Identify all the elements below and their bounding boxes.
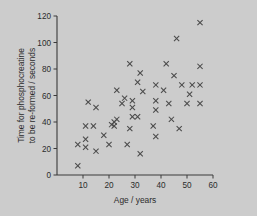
data-point [101, 133, 106, 138]
data-point [93, 149, 98, 154]
x-axis-title: Age / years [114, 195, 156, 205]
data-point [119, 101, 124, 106]
data-point [122, 96, 127, 101]
data-point [179, 82, 184, 87]
data-point [125, 142, 130, 147]
data-point [151, 123, 156, 128]
data-point [83, 145, 88, 150]
data-point [197, 64, 202, 69]
data-point [93, 105, 98, 110]
data-point [135, 114, 140, 119]
data-point [166, 101, 171, 106]
data-point [169, 117, 174, 122]
scatter-chart: 020406080100120102030405060Age / yearsTi… [0, 0, 257, 216]
y-tick-label: 100 [37, 39, 51, 48]
y-tick-label: 80 [42, 65, 52, 74]
y-axis-title-line: to be re-formed / seconds [27, 48, 37, 143]
x-tick-label: 20 [104, 181, 114, 190]
data-point [106, 142, 111, 147]
y-tick-label: 60 [42, 92, 52, 101]
data-point [135, 80, 140, 85]
y-axis-title-line: Time for phosphocreatine [16, 48, 26, 143]
y-tick-label: 120 [37, 12, 51, 21]
data-point [75, 163, 80, 168]
data-point [86, 100, 91, 105]
y-tick-label: 20 [42, 145, 52, 154]
data-point [197, 20, 202, 25]
x-tick-label: 30 [130, 181, 140, 190]
data-point [164, 61, 169, 66]
data-point [187, 92, 192, 97]
data-point [91, 123, 96, 128]
data-point [83, 137, 88, 142]
data-point [153, 82, 158, 87]
data-point [138, 151, 143, 156]
data-point [153, 107, 158, 112]
data-point [190, 82, 195, 87]
data-point [138, 70, 143, 75]
chart-canvas: 020406080100120102030405060Age / yearsTi… [0, 0, 257, 216]
data-point [114, 88, 119, 93]
data-point [130, 105, 135, 110]
data-point [197, 82, 202, 87]
data-points [75, 20, 202, 168]
data-point [114, 117, 119, 122]
data-point [161, 88, 166, 93]
data-point [174, 36, 179, 41]
y-tick-label: 40 [42, 118, 52, 127]
y-axis-title: Time for phosphocreatineto be re-formed … [16, 48, 37, 143]
data-point [75, 142, 80, 147]
data-point [177, 126, 182, 131]
data-point [127, 126, 132, 131]
x-tick-label: 50 [182, 181, 192, 190]
data-point [140, 89, 145, 94]
data-point [153, 98, 158, 103]
data-point [197, 101, 202, 106]
y-tick-label: 0 [46, 171, 51, 180]
data-point [171, 73, 176, 78]
data-point [184, 101, 189, 106]
data-point [83, 123, 88, 128]
x-tick-label: 40 [156, 181, 166, 190]
data-point [130, 114, 135, 119]
x-tick-label: 10 [78, 181, 88, 190]
data-point [127, 61, 132, 66]
data-point [153, 134, 158, 139]
data-point [130, 98, 135, 103]
x-tick-label: 60 [208, 181, 218, 190]
